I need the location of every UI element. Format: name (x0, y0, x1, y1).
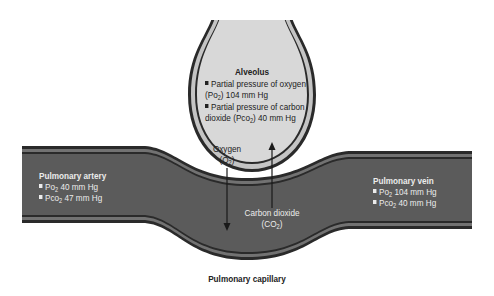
pulmonary-vein-info: Pulmonary vein Po2 104 mm Hg Pco2 40 mm … (373, 175, 437, 208)
gas-exchange-diagram: Alveolus Partial pressure of oxygen (Po2… (0, 0, 494, 296)
bullet-icon (39, 195, 42, 199)
pulmonary-vein-title: Pulmonary vein (373, 175, 434, 186)
oxygen-label: Oxygen (O2) (210, 143, 244, 165)
carbon-dioxide-label: Carbon dioxide (CO2) (241, 207, 303, 229)
bullet-icon (373, 189, 376, 193)
pulmonary-artery-info: Pulmonary artery Po2 40 mm Hg Pco2 47 mm… (39, 170, 106, 203)
diagram-graphics (0, 0, 494, 296)
alveolus-title: Alveolus (226, 66, 278, 77)
bullet-icon (205, 104, 208, 108)
pulmonary-artery-title: Pulmonary artery (39, 170, 106, 181)
alveolus-item-carbon-dioxide: Partial pressure of carbon dioxide (Pco2… (205, 101, 305, 123)
alveolus-item-oxygen: Partial pressure of oxygen (Po2) 104 mm … (205, 78, 306, 100)
bullet-icon (205, 81, 208, 85)
pulmonary-capillary-caption: Pulmonary capillary (204, 273, 290, 284)
bullet-icon (39, 184, 42, 188)
bullet-icon (373, 200, 376, 204)
